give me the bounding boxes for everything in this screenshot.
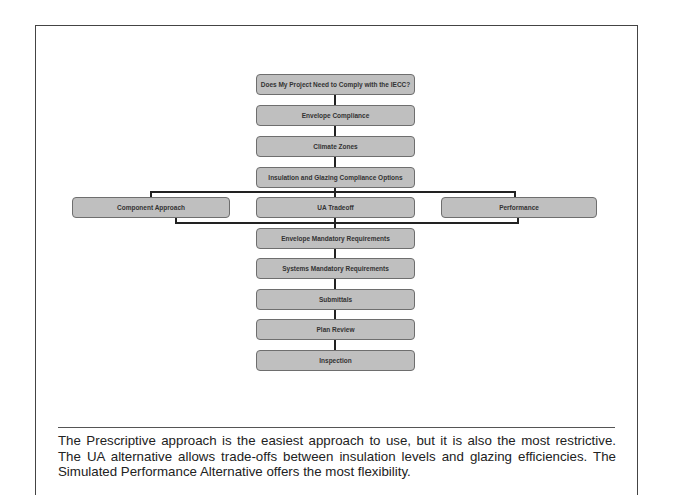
branch-label: Performance [499,204,539,211]
caption-text: The Prescriptive approach is the easiest… [58,433,616,480]
connector-envelope-climate [334,126,336,136]
connector-comply-envelope [334,95,336,105]
connector-submittals-planreview [334,310,336,319]
step-label: Envelope Mandatory Requirements [281,235,390,242]
step-label: Insulation and Glazing Compliance Option… [268,174,402,181]
branch-label: UA Tradeoff [317,204,354,211]
step-compliance-options[interactable]: Insulation and Glazing Compliance Option… [256,167,415,188]
step-systems-mandatory[interactable]: Systems Mandatory Requirements [256,258,415,279]
step-submittals[interactable]: Submittals [256,289,415,310]
connector-planreview-inspection [334,340,336,350]
branch-ua-tradeoff[interactable]: UA Tradeoff [256,197,415,218]
caption-separator [58,427,615,428]
branch-split-line [150,191,516,193]
step-comply-iecc[interactable]: Does My Project Need to Comply with the … [256,74,415,95]
step-envelope-mandatory[interactable]: Envelope Mandatory Requirements [256,228,415,249]
step-label: Inspection [319,357,352,364]
step-label: Envelope Compliance [302,112,370,119]
branch-rise-performance [517,218,519,224]
step-plan-review[interactable]: Plan Review [256,319,415,340]
branch-performance[interactable]: Performance [441,197,597,218]
step-label: Systems Mandatory Requirements [282,265,389,272]
step-climate-zones[interactable]: Climate Zones [256,136,415,157]
step-inspection[interactable]: Inspection [256,350,415,371]
step-envelope-compliance[interactable]: Envelope Compliance [256,105,415,126]
branch-rise-component [175,218,177,224]
branch-label: Component Approach [117,204,185,211]
step-label: Climate Zones [313,143,357,150]
step-label: Submittals [319,296,352,303]
step-label: Does My Project Need to Comply with the … [261,81,411,88]
connector-climate-options [334,157,336,167]
branch-component-approach[interactable]: Component Approach [72,197,230,218]
connector-ua-merge [334,218,336,228]
step-label: Plan Review [317,326,355,333]
branch-merge-line [175,222,519,224]
connector-envmand-sysmand [334,249,336,258]
connector-sysmand-submittals [334,279,336,289]
